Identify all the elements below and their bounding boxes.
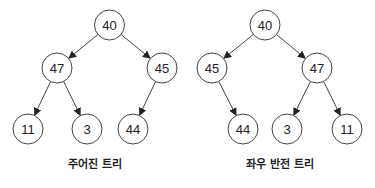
edge-47-to-3 xyxy=(294,81,311,115)
tree-node: 11 xyxy=(332,114,362,144)
node-label: 11 xyxy=(21,122,35,137)
node-label: 44 xyxy=(236,122,250,137)
edge-47-to-11 xyxy=(35,82,51,115)
tree-node: 40 xyxy=(95,10,125,40)
caption-mirrored-tree: 좌우 반전 트리 xyxy=(246,157,314,171)
edge-40-to-45 xyxy=(121,35,150,59)
tree-node: 47 xyxy=(302,53,332,83)
edge-47-to-11 xyxy=(324,81,341,115)
caption-original-tree: 주어진 트리 xyxy=(68,157,122,171)
node-label: 44 xyxy=(126,122,140,137)
tree-node: 47 xyxy=(42,53,72,83)
edge-40-to-45 xyxy=(224,34,253,58)
node-label: 3 xyxy=(83,122,90,137)
edge-40-to-47 xyxy=(277,35,305,59)
node-label: 11 xyxy=(340,122,354,137)
tree-node: 44 xyxy=(118,114,148,144)
edge-45-to-44 xyxy=(219,81,236,115)
node-label: 47 xyxy=(50,61,64,76)
edge-45-to-44 xyxy=(140,82,156,115)
edge-40-to-47 xyxy=(69,35,98,59)
tree-node: 3 xyxy=(272,114,302,144)
node-label: 47 xyxy=(310,61,324,76)
nodes-layer: 4047451134440454744311 xyxy=(13,10,362,144)
node-label: 40 xyxy=(258,18,272,33)
edge-47-to-3 xyxy=(64,81,81,115)
captions-layer: 주어진 트리 좌우 반전 트리 xyxy=(68,157,314,171)
node-label: 45 xyxy=(155,61,169,76)
tree-node: 45 xyxy=(147,53,177,83)
tree-node: 40 xyxy=(250,10,280,40)
tree-node: 3 xyxy=(72,114,102,144)
edges-layer xyxy=(35,34,341,115)
node-label: 40 xyxy=(102,18,116,33)
node-label: 3 xyxy=(283,122,290,137)
binary-tree-mirror-diagram: 4047451134440454744311 주어진 트리 좌우 반전 트리 xyxy=(0,0,375,188)
tree-node: 45 xyxy=(197,53,227,83)
node-label: 45 xyxy=(205,61,219,76)
tree-node: 44 xyxy=(228,114,258,144)
tree-node: 11 xyxy=(13,114,43,144)
